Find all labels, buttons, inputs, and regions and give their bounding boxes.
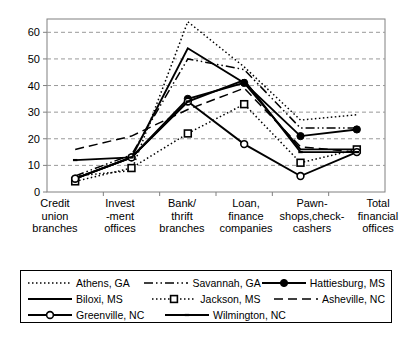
data-point-marker xyxy=(73,159,77,161)
x-category-label-1: Invest -ment offices xyxy=(89,197,151,235)
y-tick-label: 20 xyxy=(28,133,40,145)
y-tick-label: 50 xyxy=(28,53,40,65)
data-point-marker xyxy=(297,173,304,180)
data-point-marker xyxy=(241,141,248,148)
data-point-marker xyxy=(72,175,79,182)
x-category-label-3: Loan, finance companies xyxy=(211,197,281,235)
legend-row: Biloxi, MS Jackson, MS Asheville, NC xyxy=(27,291,385,307)
data-point-marker xyxy=(241,101,248,108)
legend-item-jackson-ms: Jackson, MS xyxy=(151,293,273,305)
data-point-marker xyxy=(355,151,359,153)
legend-swatch-solid-filled-circle-icon xyxy=(261,277,307,289)
y-tick-label: 10 xyxy=(28,159,40,171)
y-tick-label: 40 xyxy=(28,80,40,92)
legend-label: Athens, GA xyxy=(76,277,130,289)
legend-item-hattiesburg-ms: Hattiesburg, MS xyxy=(261,277,385,289)
legend-swatch-dash-dot-dot-icon xyxy=(143,277,189,289)
x-category-label-0: Credit union branches xyxy=(24,197,86,235)
legend-row: Athens, GA Savannah, GA Hattiesburg, MS xyxy=(27,275,385,291)
x-category-label-4: Pawn- shops,check- cashers xyxy=(272,197,352,235)
legend-item-wilmington-nc: Wilmington, NC xyxy=(164,309,298,321)
data-point-marker xyxy=(297,133,304,140)
data-point-marker xyxy=(128,165,135,172)
series-line-biloxi-ms xyxy=(75,48,357,178)
plot-area: 0102030405060 Credit union branches Inve… xyxy=(0,0,415,262)
data-point-marker xyxy=(242,79,246,81)
y-tick-label: 60 xyxy=(28,26,40,38)
legend-label: Jackson, MS xyxy=(200,293,260,305)
legend-label: Asheville, NC xyxy=(322,293,385,305)
legend-swatch-long-dash-icon xyxy=(273,293,319,305)
legend-item-biloxi-ms: Biloxi, MS xyxy=(27,293,151,305)
legend-item-asheville-nc: Asheville, NC xyxy=(273,293,385,305)
legend-row: Greenville, NC Wilmington, NC xyxy=(27,307,385,323)
data-point-marker xyxy=(184,130,191,137)
data-point-marker xyxy=(129,156,133,158)
series-line-asheville-nc xyxy=(75,88,357,152)
chart-legend: Athens, GA Savannah, GA Hattiesburg, MS … xyxy=(20,270,392,323)
legend-swatch-solid-open-circle-icon xyxy=(27,309,73,321)
legend-swatch-solid-small-marker-icon xyxy=(164,309,210,321)
legend-swatch-dotted-open-square-icon xyxy=(151,293,197,305)
chart-figure: 0102030405060 Credit union branches Inve… xyxy=(0,0,415,338)
legend-label: Hattiesburg, MS xyxy=(310,277,385,289)
legend-swatch-dotted-icon xyxy=(27,277,73,289)
data-point-marker xyxy=(353,126,360,133)
legend-label: Wilmington, NC xyxy=(213,309,286,321)
x-category-label-2: Bank/ thrift branches xyxy=(151,197,213,235)
y-tick-label: 30 xyxy=(28,106,40,118)
legend-label: Savannah, GA xyxy=(192,277,260,289)
legend-swatch-solid-icon xyxy=(27,293,73,305)
series-line-hattiesburg-ms xyxy=(75,83,357,179)
legend-label: Biloxi, MS xyxy=(76,293,123,305)
x-category-label-5: Total financial offices xyxy=(345,197,411,235)
legend-label: Greenville, NC xyxy=(76,309,144,321)
data-point-marker xyxy=(186,100,190,102)
legend-item-savannah-ga: Savannah, GA xyxy=(143,277,260,289)
legend-item-greenville-nc: Greenville, NC xyxy=(27,309,164,321)
series-line-wilmington-nc xyxy=(75,80,357,160)
data-point-marker xyxy=(298,151,302,153)
legend-item-athens-ga: Athens, GA xyxy=(27,277,143,289)
data-point-marker xyxy=(297,159,304,166)
